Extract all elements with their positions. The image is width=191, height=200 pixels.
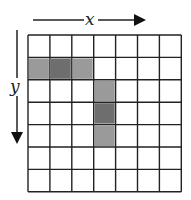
y-axis-label: y bbox=[9, 76, 20, 96]
shaded-cell-dark bbox=[95, 103, 115, 123]
shaded-cell-light bbox=[95, 126, 115, 146]
shaded-cell-light bbox=[95, 81, 115, 101]
shaded-cell-light bbox=[29, 58, 49, 78]
shaded-cell-dark bbox=[51, 58, 71, 78]
shaded-cell-light bbox=[73, 58, 93, 78]
x-axis-label: x bbox=[85, 9, 95, 29]
grid-diagram: x y bbox=[0, 0, 191, 200]
